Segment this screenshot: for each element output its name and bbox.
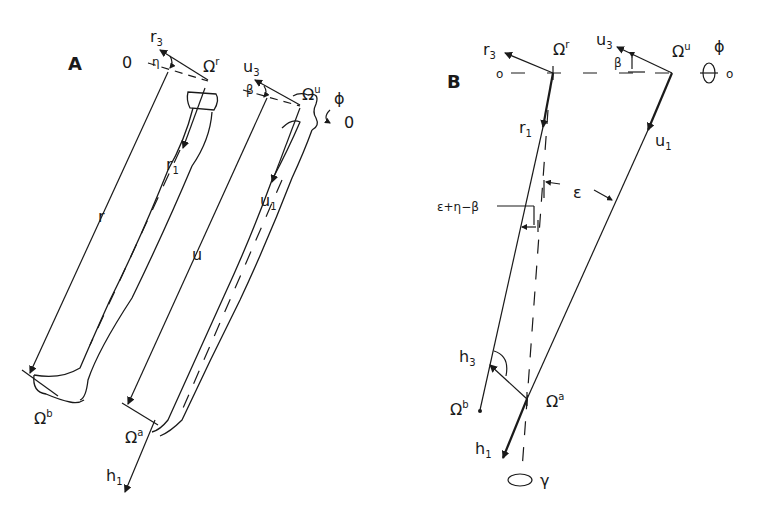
label-origin-right: 0 bbox=[344, 113, 354, 132]
forearm-kinematics-figure: A bbox=[0, 0, 758, 514]
h3-right-angle-arc bbox=[494, 351, 507, 376]
label-origin-left: 0 bbox=[122, 53, 132, 72]
panel-b: B bbox=[437, 30, 733, 490]
label-h3: h3 bbox=[459, 347, 476, 368]
label-origin-right-b: o bbox=[726, 67, 733, 81]
label-omega-r: Ωr bbox=[203, 56, 220, 76]
label-origin-left-b: o bbox=[496, 67, 503, 81]
omega-b-point bbox=[478, 409, 482, 413]
label-eta: η bbox=[152, 55, 160, 69]
label-ulna-length: u bbox=[192, 245, 202, 264]
panel-a: A bbox=[22, 27, 354, 492]
label-u1: u1 bbox=[260, 191, 277, 212]
label-h1: h1 bbox=[106, 466, 123, 487]
radius-axis-line-b bbox=[480, 127, 543, 410]
label-omega-r-b: Ωr bbox=[553, 39, 570, 59]
u3-axis-arrow-b bbox=[617, 47, 672, 73]
label-r1: r1 bbox=[166, 155, 179, 176]
epsilon-right-arrow bbox=[594, 190, 612, 200]
label-beta: β bbox=[246, 83, 254, 97]
label-omega-b-b: Ωb bbox=[450, 399, 469, 419]
label-u3: u3 bbox=[243, 57, 260, 78]
h3-axis-arrow bbox=[490, 365, 527, 399]
label-compound-angle: ε+η−β bbox=[437, 200, 479, 214]
r3-axis-arrow-b bbox=[505, 53, 553, 73]
label-phi-b: ϕ bbox=[714, 37, 725, 56]
phi-rotation-icon bbox=[326, 110, 330, 123]
beta-angle-arc-a bbox=[264, 86, 266, 97]
radius-bone bbox=[34, 92, 218, 403]
r3-axis-arrow bbox=[160, 50, 208, 80]
label-h1-b: h1 bbox=[475, 439, 492, 460]
epsilon-left-arrow bbox=[546, 182, 560, 184]
label-r1-b: r1 bbox=[519, 118, 532, 139]
label-r3-b: r3 bbox=[483, 40, 496, 61]
panel-a-label: A bbox=[68, 53, 82, 74]
label-radius-length: r bbox=[98, 207, 105, 226]
panel-b-label: B bbox=[447, 71, 461, 92]
label-omega-b: Ωb bbox=[34, 408, 53, 428]
r1-axis-arrow bbox=[183, 88, 205, 148]
r1-axis-arrow-b bbox=[543, 73, 553, 127]
u3-axis-arrow bbox=[255, 80, 300, 105]
gamma-rotation-icon bbox=[508, 474, 532, 486]
ulna-bone bbox=[152, 94, 317, 436]
ulna-axis-line-b bbox=[527, 130, 648, 399]
u1-axis-arrow-b bbox=[648, 73, 672, 130]
label-gamma: γ bbox=[540, 471, 549, 490]
label-phi: ϕ bbox=[334, 89, 345, 108]
label-u1-b: u1 bbox=[655, 131, 672, 152]
label-u3-b: u3 bbox=[596, 30, 613, 51]
ulna-distal-baseline bbox=[122, 403, 158, 425]
label-epsilon: ε bbox=[573, 183, 582, 202]
label-beta-b: β bbox=[614, 56, 622, 70]
label-omega-a: Ωa bbox=[125, 427, 143, 447]
label-omega-u: Ωu bbox=[302, 84, 321, 104]
label-r3: r3 bbox=[150, 27, 163, 48]
label-omega-u-b: Ωu bbox=[672, 41, 691, 61]
label-omega-a-b: Ωa bbox=[546, 391, 564, 411]
